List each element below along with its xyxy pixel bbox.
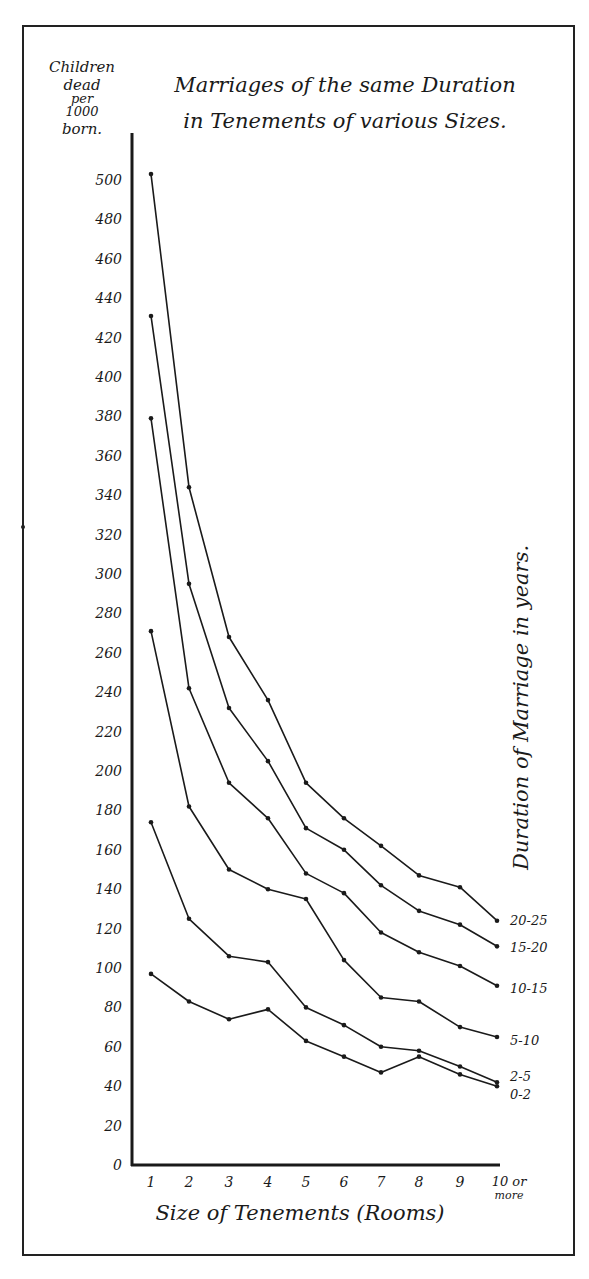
data-point bbox=[149, 172, 154, 177]
x-tick-label: 3 bbox=[225, 1174, 234, 1190]
data-point bbox=[495, 1084, 500, 1089]
y-tick-label: 40 bbox=[103, 1078, 122, 1094]
y-tick-label: 400 bbox=[94, 369, 122, 385]
data-point bbox=[458, 922, 463, 927]
data-point bbox=[227, 706, 232, 711]
data-point bbox=[304, 1039, 309, 1044]
series-line-20-25 bbox=[151, 174, 497, 921]
data-point bbox=[266, 1007, 271, 1012]
series-line-15-20 bbox=[151, 316, 497, 946]
data-point bbox=[417, 999, 422, 1004]
series-line-0-2 bbox=[151, 974, 497, 1086]
data-point bbox=[495, 918, 500, 923]
data-point bbox=[149, 972, 154, 977]
series-labels: 20-2515-2010-155-102-50-2 bbox=[509, 913, 547, 1102]
data-series bbox=[149, 172, 500, 1089]
data-point bbox=[187, 485, 192, 490]
x-tick-label-sub: more bbox=[495, 1189, 524, 1202]
data-point bbox=[227, 954, 232, 959]
data-point bbox=[304, 1005, 309, 1010]
data-point bbox=[379, 883, 384, 888]
x-tick-label: 8 bbox=[415, 1174, 424, 1190]
series-line-10-15 bbox=[151, 418, 497, 985]
data-point bbox=[227, 635, 232, 640]
line-chart: Marriages of the same Durationin Tenemen… bbox=[0, 0, 589, 1279]
data-point bbox=[304, 781, 309, 786]
y-tick-label: 460 bbox=[94, 251, 122, 267]
data-point bbox=[417, 909, 422, 914]
data-point bbox=[149, 416, 154, 421]
data-point bbox=[458, 1064, 463, 1069]
series-label: 2-5 bbox=[509, 1069, 531, 1084]
data-point bbox=[342, 958, 347, 963]
data-point bbox=[342, 848, 347, 853]
series-label: 15-20 bbox=[510, 940, 547, 955]
data-point bbox=[187, 582, 192, 587]
y-tick-label: 440 bbox=[94, 290, 122, 306]
chart-title: Marriages of the same Durationin Tenemen… bbox=[173, 73, 515, 133]
y-tick-label: 160 bbox=[95, 842, 122, 858]
y-axis-ticks: 0204060801001201401601802002202402602803… bbox=[94, 172, 122, 1173]
data-point bbox=[495, 944, 500, 949]
y-tick-label: 120 bbox=[95, 921, 122, 937]
series-label: 10-15 bbox=[510, 981, 547, 996]
y-tick-label: 240 bbox=[94, 684, 122, 700]
data-point bbox=[342, 816, 347, 821]
y-tick-label: 360 bbox=[95, 448, 122, 464]
legend-title: Duration of Marriage in years. bbox=[509, 545, 533, 871]
data-point bbox=[266, 759, 271, 764]
x-axis-ticks: 12345678910 ormore bbox=[147, 1174, 528, 1202]
data-point bbox=[342, 1023, 347, 1028]
y-tick-label: 0 bbox=[113, 1157, 122, 1173]
y-tick-label: 140 bbox=[95, 881, 122, 897]
x-tick-label: 2 bbox=[184, 1174, 194, 1190]
data-point bbox=[379, 1045, 384, 1050]
y-label-line: 1000 bbox=[65, 104, 98, 119]
data-point bbox=[227, 781, 232, 786]
data-point bbox=[187, 804, 192, 809]
data-point bbox=[458, 885, 463, 890]
data-point bbox=[266, 887, 271, 892]
data-point bbox=[266, 698, 271, 703]
y-label-line: Children bbox=[49, 58, 115, 76]
legend-title-text: Duration of Marriage in years. bbox=[509, 545, 533, 871]
x-tick-label: 9 bbox=[456, 1174, 465, 1190]
y-tick-label: 420 bbox=[94, 330, 122, 346]
data-point bbox=[417, 1054, 422, 1059]
data-point bbox=[149, 314, 154, 319]
data-point bbox=[304, 897, 309, 902]
y-tick-label: 20 bbox=[103, 1118, 122, 1134]
x-tick-label: 7 bbox=[377, 1174, 386, 1190]
y-tick-label: 80 bbox=[104, 999, 122, 1015]
data-point bbox=[379, 844, 384, 849]
series-label: 5-10 bbox=[510, 1033, 539, 1048]
data-point bbox=[458, 1025, 463, 1030]
y-label-line: born. bbox=[62, 120, 102, 138]
series-line-2-5 bbox=[151, 822, 497, 1082]
data-point bbox=[187, 999, 192, 1004]
data-point bbox=[495, 983, 500, 988]
data-point bbox=[304, 826, 309, 831]
y-tick-label: 320 bbox=[95, 527, 122, 543]
data-point bbox=[342, 1054, 347, 1059]
y-tick-label: 500 bbox=[95, 172, 122, 188]
data-point bbox=[458, 964, 463, 969]
series-label: 0-2 bbox=[510, 1087, 531, 1102]
y-tick-label: 300 bbox=[95, 566, 122, 582]
data-point bbox=[149, 820, 154, 825]
x-tick-label: 4 bbox=[263, 1174, 273, 1190]
y-tick-label: 180 bbox=[95, 802, 122, 818]
y-tick-label: 340 bbox=[95, 487, 122, 503]
x-tick-label: 10 or bbox=[492, 1174, 528, 1189]
data-point bbox=[495, 1080, 500, 1085]
data-point bbox=[187, 686, 192, 691]
title-line: in Tenements of various Sizes. bbox=[183, 109, 506, 133]
data-point bbox=[227, 1017, 232, 1022]
y-tick-label: 280 bbox=[94, 605, 122, 621]
y-tick-label: 480 bbox=[94, 211, 122, 227]
data-point bbox=[227, 867, 232, 872]
data-point bbox=[417, 873, 422, 878]
data-point bbox=[458, 1072, 463, 1077]
y-tick-label: 260 bbox=[94, 645, 122, 661]
data-point bbox=[417, 1048, 422, 1053]
